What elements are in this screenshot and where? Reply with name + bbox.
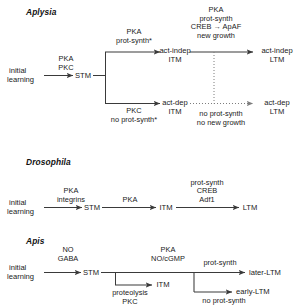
aplysia-node-act-dep-itm-line2: ITM [168,108,181,117]
aplysia-node-initial-learning-line2: learning [7,76,34,85]
drosophila-node-itm: ITM [159,204,172,213]
aplysia-label-lower-branch-line2: no prot-synth* [111,116,157,124]
apis-node-later-ltm: later-LTM [249,269,281,278]
section-title-aplysia: Aplysia [26,7,57,17]
drosophila-label-itm-to-ltm-line3: Adf1 [199,196,214,204]
aplysia-node-act-dep-ltm-line2: LTM [270,108,285,117]
aplysia-label-upper-branch-line2: prot-synth* [116,37,152,45]
aplysia-node-act-indep-itm-line2: ITM [168,56,181,65]
section-title-drosophila: Drosophila [26,157,71,167]
apis-node-itm: ITM [156,281,169,290]
section-title-apis: Apis [26,236,45,246]
drosophila-node-ltm: LTM [243,204,258,213]
apis-label-start-to-stm-line2: GABA [58,255,79,263]
aplysia-node-stm: STM [75,72,91,81]
aplysia-label-itm-to-ltm-line4: new growth [197,32,235,40]
apis-node-initial-learning-line2: learning [7,273,34,282]
drosophila-label-start-to-stm-line2: integrins [57,196,85,204]
apis-label-later-branch: prot-synth [203,259,236,267]
apis-label-stm-to-itm-line2: PKC [122,298,137,306]
pathway-diagram: Aplysia initial learning STM PKA PKC PKA… [0,0,300,307]
apis-node-early-ltm: early-LTM [236,288,270,297]
drosophila-label-stm-to-itm: PKA [123,196,138,204]
apis-node-stm: STM [83,269,99,278]
aplysia-label-dotted-line2: no new growth [197,119,245,127]
aplysia-label-start-to-stm-line2: PKC [58,64,73,72]
drosophila-node-initial-learning-line2: learning [7,208,34,217]
diagram-lines-layer [0,0,300,307]
apis-label-main-line2: NO/cGMP [151,255,185,263]
apis-label-early-branch: no prot-synth [202,297,245,305]
drosophila-node-stm: STM [84,204,100,213]
aplysia-node-act-indep-ltm-line2: LTM [270,56,285,65]
